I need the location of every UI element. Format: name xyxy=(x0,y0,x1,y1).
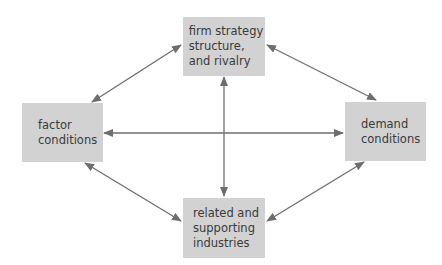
porter-diamond-diagram: firm strategy structure, and rivalry fac… xyxy=(0,0,442,265)
arrow-firm-demand xyxy=(267,45,376,100)
related-industries-box: related and supporting industries xyxy=(183,198,265,258)
demand-conditions-box: demand conditions xyxy=(345,102,426,161)
demand-conditions-label: demand conditions xyxy=(361,117,420,147)
arrow-factor-related xyxy=(85,163,181,221)
arrow-factor-firm xyxy=(92,45,181,102)
factor-conditions-box: factor conditions xyxy=(22,103,103,162)
factor-conditions-label: factor conditions xyxy=(38,118,97,148)
firm-strategy-box: firm strategy structure, and rivalry xyxy=(183,17,265,76)
related-industries-label: related and supporting industries xyxy=(189,206,259,251)
firm-strategy-label: firm strategy structure, and rivalry xyxy=(185,24,264,69)
arrow-related-demand xyxy=(267,162,364,221)
